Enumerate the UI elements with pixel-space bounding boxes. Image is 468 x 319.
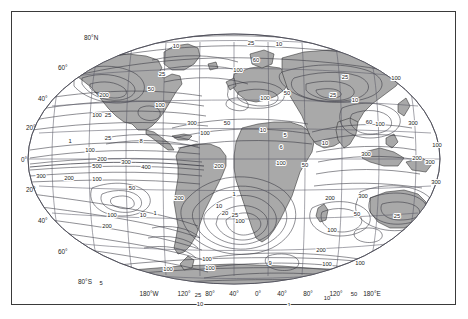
contour-label: 20 xyxy=(222,210,228,216)
contour-label: 300 xyxy=(361,151,371,157)
contour-label: 300 xyxy=(121,159,131,165)
contour-label: 100 xyxy=(205,265,215,271)
contour-label: 25 xyxy=(105,135,111,141)
contour-label: 25 xyxy=(195,292,201,298)
lat-label-0: 0° xyxy=(21,156,28,163)
contour-label: 100 xyxy=(276,160,286,166)
contour-label: 100 xyxy=(432,142,442,148)
contour-label: 400 xyxy=(141,164,151,170)
contour-label: 100 xyxy=(202,256,212,262)
contour-label: 50 xyxy=(224,120,230,126)
lon-label-180E: 180°E xyxy=(363,290,380,297)
contour-label: 200 xyxy=(316,247,326,253)
contour-label: 100 xyxy=(260,95,270,101)
lat-label-60N: 60° xyxy=(58,64,68,71)
contour-label: 50 xyxy=(284,90,290,96)
contour-label: 100 xyxy=(92,176,102,182)
contour-label: 100 xyxy=(200,130,210,136)
contour-label: 10 xyxy=(352,97,358,103)
contour-label: 100 xyxy=(233,67,243,73)
lon-label-40W: 40° xyxy=(229,290,239,297)
contour-label: 8 xyxy=(139,138,142,144)
contour-label: 100 xyxy=(163,266,173,272)
contour-label: 25 xyxy=(159,71,165,77)
lat-label-40N: 40° xyxy=(38,95,48,102)
contour-label: 5 xyxy=(283,132,286,138)
contour-label: 25 xyxy=(105,112,111,118)
contour-label: 300 xyxy=(36,173,46,179)
contour-label: 5 xyxy=(99,280,102,286)
contour-label: 1 xyxy=(153,210,156,216)
contour-label: 10 xyxy=(260,127,266,133)
contour-label: 100 xyxy=(235,218,245,224)
contour-label: 100 xyxy=(375,121,385,127)
contour-label: 100 xyxy=(85,147,95,153)
contour-label: 50 xyxy=(302,162,308,168)
lon-label-180W: 180°W xyxy=(139,290,159,297)
contour-label: 10 xyxy=(173,43,179,49)
lon-label-120E: 120° xyxy=(329,290,343,297)
contour-label: 50 xyxy=(354,211,360,217)
world-contour-map: 1010252510102525606010010025251001002002… xyxy=(12,12,457,306)
contour-label: 60 xyxy=(253,57,259,63)
land-antarctica xyxy=(60,264,424,306)
contour-label: 200 xyxy=(214,163,224,169)
contour-label: 25 xyxy=(248,40,254,46)
contour-label: 200 xyxy=(102,223,112,229)
lat-label-80N: 80°N xyxy=(84,34,99,41)
contour-label: 300 xyxy=(431,179,441,185)
contour-label: 200 xyxy=(64,175,74,181)
contour-label: 300 xyxy=(187,120,197,126)
figure-container: 1010252510102525606010010025251001002002… xyxy=(0,0,468,319)
lat-label-80S: 80°S xyxy=(78,278,92,285)
contour-label: 10 xyxy=(140,212,146,218)
contour-label: 200 xyxy=(99,92,109,98)
contour-label: 9 xyxy=(268,260,271,266)
map-frame: 1010252510102525606010010025251001002002… xyxy=(11,11,456,305)
contour-label: 50 xyxy=(148,86,154,92)
contour-label: 50 xyxy=(351,291,357,297)
contour-label: 10 xyxy=(216,203,222,209)
contour-label: 60 xyxy=(366,119,372,125)
contour-label: 10 xyxy=(276,41,282,47)
contour-label: 25 xyxy=(330,92,336,98)
contour-label: 100 xyxy=(107,212,117,218)
contour-label: 25 xyxy=(394,213,400,219)
lon-label-120W: 120° xyxy=(177,290,191,297)
lon-label-80E: 80° xyxy=(303,290,313,297)
lat-label-20N: 20° xyxy=(26,124,36,131)
contour-label: 100 xyxy=(155,102,165,108)
contour-label: 200 xyxy=(325,195,335,201)
lon-label-80W: 80° xyxy=(205,290,215,297)
land-new-zealand xyxy=(436,218,448,236)
lon-label-0: 0° xyxy=(255,290,262,297)
contour-label: 50 xyxy=(129,185,135,191)
contour-label: 100 xyxy=(92,112,102,118)
contour-label: 10 xyxy=(197,301,203,306)
contour-label: 100 xyxy=(327,227,337,233)
contour-label: 1 xyxy=(68,138,71,144)
contour-label: 200 xyxy=(174,195,184,201)
contour-label: 200 xyxy=(97,156,107,162)
contour-label: 300 xyxy=(408,120,418,126)
longitude-labels: 180°W 120° 80° 40° 0° 40° 80° 120° 180°E xyxy=(139,290,380,297)
lon-label-40E: 40° xyxy=(277,290,287,297)
contour-label: 500 xyxy=(92,163,102,169)
lat-label-60S: 60° xyxy=(58,248,68,255)
contour-label: 1 xyxy=(287,302,290,306)
lat-label-40S: 40° xyxy=(38,217,48,224)
contour-label: 100 xyxy=(355,260,365,266)
contour-label: 300 xyxy=(358,193,368,199)
contour-label: 6 xyxy=(279,144,282,150)
contour-label: 300 xyxy=(425,159,435,165)
contour-label: 25 xyxy=(342,74,348,80)
contour-label: 100 xyxy=(391,75,401,81)
contour-label: 1 xyxy=(232,191,235,197)
contour-label: 10 xyxy=(322,140,328,146)
contour-label: 200 xyxy=(412,155,422,161)
lat-label-20S: 20° xyxy=(26,186,36,193)
contour-label: 100 xyxy=(322,261,332,267)
